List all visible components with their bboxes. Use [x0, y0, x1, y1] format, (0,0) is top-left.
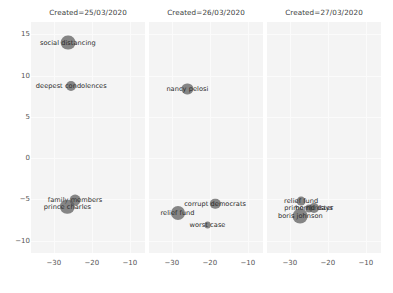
- x-axis-tick-label: −10: [240, 259, 255, 267]
- gridline-horizontal: [267, 158, 381, 159]
- facet-panel: Created=27/03/2020relief fundprime minis…: [267, 22, 381, 253]
- gridline-vertical: [248, 22, 249, 253]
- gridline-horizontal: [267, 241, 381, 242]
- scatter-point-label: boris johnson: [278, 212, 323, 220]
- x-axis-tick-label: −10: [122, 259, 137, 267]
- gridline-horizontal: [149, 76, 263, 77]
- scatter-plot-figure: 151050−5−10 Created=25/03/2020social dis…: [0, 0, 393, 293]
- gridline-horizontal: [31, 117, 145, 118]
- gridline-horizontal: [149, 117, 263, 118]
- y-axis-tick-label: 10: [21, 72, 30, 80]
- x-axis-tick-row: −30−20−10: [31, 259, 145, 271]
- x-axis-tick-label: −10: [358, 259, 373, 267]
- y-axis-tick-label: 5: [26, 113, 30, 121]
- panel-background: [149, 22, 263, 253]
- gridline-vertical: [328, 22, 329, 253]
- y-axis-tick-label: 0: [26, 154, 30, 162]
- x-axis-tick-label: −30: [46, 259, 61, 267]
- panel-background: [31, 22, 145, 253]
- panel-title: Created=27/03/2020: [267, 8, 381, 17]
- x-axis-tick-label: −20: [202, 259, 217, 267]
- facet-panel: Created=26/03/2020nancy pelosicorrupt de…: [149, 22, 263, 253]
- y-axis-tick-column: 151050−5−10: [0, 22, 30, 253]
- scatter-point-label: corrupt democrats: [184, 200, 246, 208]
- x-axis-tick-row: −30−20−10: [149, 259, 263, 271]
- gridline-vertical: [366, 22, 367, 253]
- x-axis-tick-label: −30: [282, 259, 297, 267]
- panel-title: Created=26/03/2020: [149, 8, 263, 17]
- panel-title: Created=25/03/2020: [31, 8, 145, 17]
- x-axis-tick-label: −20: [320, 259, 335, 267]
- scatter-point-label: deepest condolences: [36, 82, 107, 90]
- gridline-vertical: [130, 22, 131, 253]
- y-axis-tick-label: −5: [20, 195, 30, 203]
- gridline-horizontal: [31, 76, 145, 77]
- y-axis-tick-label: −10: [15, 237, 30, 245]
- facet-row: 151050−5−10 Created=25/03/2020social dis…: [0, 0, 393, 293]
- gridline-horizontal: [31, 34, 145, 35]
- gridline-horizontal: [149, 158, 263, 159]
- facet-panel: Created=25/03/2020social distancingdeepe…: [31, 22, 145, 253]
- scatter-point-label: prince charles: [44, 203, 91, 211]
- gridline-horizontal: [267, 117, 381, 118]
- x-axis-tick-label: −20: [84, 259, 99, 267]
- y-axis-tick-label: 15: [21, 30, 30, 38]
- gridline-vertical: [92, 22, 93, 253]
- gridline-vertical: [54, 22, 55, 253]
- gridline-vertical: [210, 22, 211, 253]
- gridline-horizontal: [149, 241, 263, 242]
- scatter-point-label: social distancing: [40, 39, 96, 47]
- x-axis-tick-row: −30−20−10: [267, 259, 381, 271]
- gridline-horizontal: [31, 241, 145, 242]
- gridline-horizontal: [267, 34, 381, 35]
- scatter-point-label: nancy pelosi: [166, 85, 208, 93]
- gridline-horizontal: [31, 158, 145, 159]
- gridline-horizontal: [267, 76, 381, 77]
- x-axis-tick-label: −30: [164, 259, 179, 267]
- scatter-point-label: worst case: [190, 221, 226, 229]
- gridline-horizontal: [149, 34, 263, 35]
- scatter-point-label: relief fund: [160, 209, 194, 217]
